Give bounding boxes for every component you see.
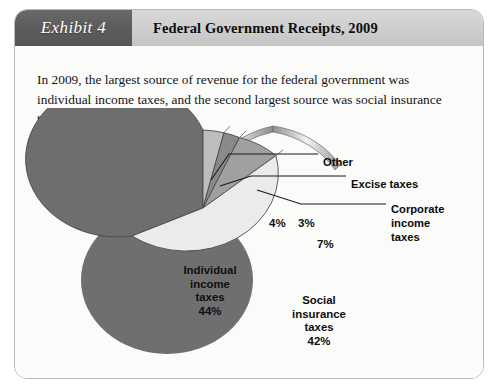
exhibit-card: Exhibit 4 Federal Government Receipts, 2…	[14, 9, 484, 379]
leader-line-corporate	[257, 190, 386, 204]
slice-divider-other	[224, 126, 230, 133]
social-percent: 42%	[308, 335, 331, 347]
social-line2: insurance	[292, 308, 346, 320]
slice-divider-corporate	[276, 150, 283, 156]
callout-corporate-line1: Corporate	[391, 203, 444, 215]
exhibit-header: Exhibit 4 Federal Government Receipts, 2…	[15, 10, 483, 46]
social-line1: Social	[302, 294, 336, 306]
slice-label-individual-income-taxes: Individual income taxes 44%	[162, 264, 258, 318]
callout-label-excise-taxes: Excise taxes	[351, 178, 418, 192]
pie-chart-figure: Other Excise taxes Corporate income taxe…	[15, 108, 483, 378]
slice-percent-excise-taxes: 3%	[298, 217, 315, 229]
individual-line2: income	[190, 278, 230, 290]
callout-corporate-line3: taxes	[391, 231, 420, 243]
slice-label-social-insurance-taxes: Social insurance taxes 42%	[265, 294, 373, 348]
exhibit-number-tab: Exhibit 4	[15, 10, 132, 46]
slice-percent-other: 4%	[269, 217, 286, 229]
callout-corporate-line2: income	[391, 217, 430, 229]
exhibit-title-bar: Federal Government Receipts, 2009	[132, 10, 483, 46]
slice-percent-corporate-income-taxes: 7%	[317, 238, 334, 250]
social-line3: taxes	[304, 321, 333, 333]
individual-line3: taxes	[195, 291, 224, 303]
callout-label-corporate-income-taxes: Corporate income taxes	[391, 202, 444, 244]
pie-slice-individual-income-taxes	[26, 108, 203, 237]
page-title: Federal Government Receipts, 2009	[153, 20, 378, 37]
exhibit-body: In 2009, the largest source of revenue f…	[15, 46, 483, 378]
exhibit-number-label: Exhibit 4	[41, 18, 106, 38]
individual-percent: 44%	[199, 305, 222, 317]
callout-label-other: Other	[323, 156, 353, 170]
individual-line1: Individual	[183, 264, 236, 276]
